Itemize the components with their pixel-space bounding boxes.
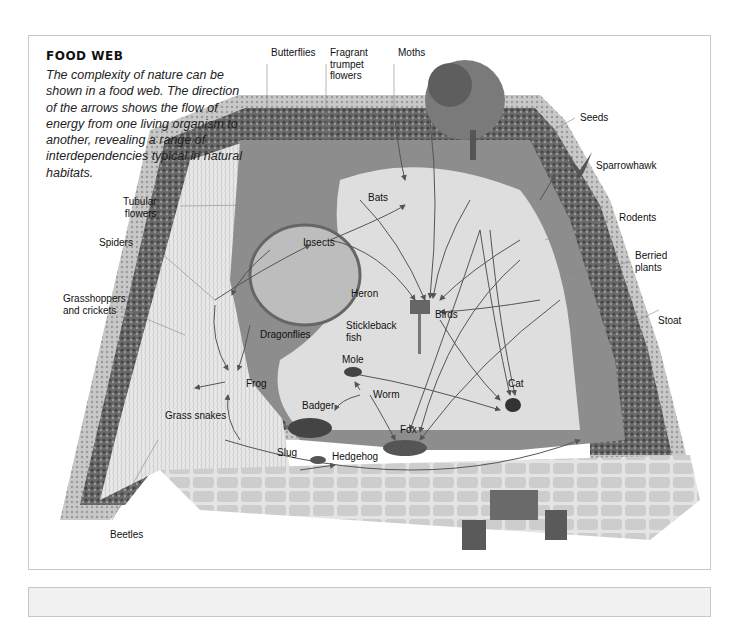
label-bats: Bats <box>368 192 388 204</box>
label-worm: Worm <box>373 389 399 401</box>
label-butterflies: Butterflies <box>271 47 315 59</box>
paving <box>160 455 700 540</box>
fox-figure <box>383 440 427 456</box>
label-cat: Cat <box>508 378 524 390</box>
label-mole: Mole <box>342 354 364 366</box>
label-dragonflies: Dragonflies <box>260 329 311 341</box>
label-beetles: Beetles <box>110 529 143 541</box>
label-frog: Frog <box>246 378 267 390</box>
label-insects: Insects <box>303 237 335 249</box>
label-slug: Slug <box>277 447 297 459</box>
garden-table <box>490 490 538 520</box>
cat-figure <box>505 398 521 412</box>
mole-figure <box>344 367 362 377</box>
label-stickleback-fish: Stickleback fish <box>346 320 397 343</box>
figure-title: FOOD WEB <box>46 49 123 63</box>
label-birds: Birds <box>435 309 458 321</box>
label-sparrowhawk: Sparrowhawk <box>596 160 657 172</box>
label-rodents: Rodents <box>619 212 656 224</box>
label-seeds: Seeds <box>580 112 608 124</box>
label-grasshoppers-and-crickets: Grasshoppers and crickets <box>63 293 126 316</box>
label-fragrant-trumpet-flowers: Fragrant trumpet flowers <box>330 47 368 82</box>
label-spiders: Spiders <box>99 237 133 249</box>
figure-description: The complexity of nature can be shown in… <box>46 67 251 181</box>
label-berried-plants: Berried plants <box>635 250 667 273</box>
caption-panel <box>28 587 711 617</box>
label-badger: Badger <box>302 400 334 412</box>
bird-table <box>410 300 430 314</box>
label-tubular-flowers: Tubular flowers <box>123 196 157 219</box>
badger-figure <box>288 418 332 438</box>
label-grass-snakes: Grass snakes <box>165 410 226 422</box>
label-moths: Moths <box>398 47 425 59</box>
label-heron: Heron <box>351 288 378 300</box>
label-stoat: Stoat <box>658 315 681 327</box>
label-fox: Fox <box>400 424 417 436</box>
label-hedgehog: Hedgehog <box>332 451 378 463</box>
